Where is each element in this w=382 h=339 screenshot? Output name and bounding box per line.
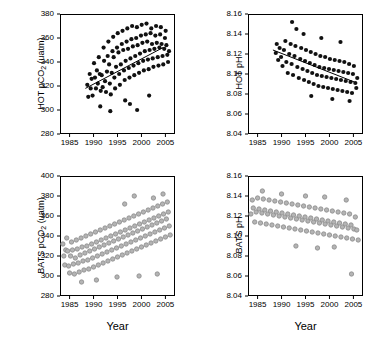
x-tick-label-bats-ph: 2005 (339, 300, 367, 309)
x-tick-label-hot-pco2: 2005 (151, 138, 179, 147)
y-tick-label-bats-pco2: 300 (18, 271, 54, 280)
y-tick-label-hot-ph: 8.14 (206, 29, 242, 38)
y-tick-label-hot-ph: 8.10 (206, 69, 242, 78)
chart-overlay (0, 0, 382, 339)
data-points-bats-ph (249, 189, 361, 276)
y-tick-label-hot-ph: 8.16 (206, 9, 242, 18)
y-tick-label-hot-pco2: 280 (18, 129, 54, 138)
y-tick-label-bats-pco2: 400 (18, 171, 54, 180)
y-tick-label-bats-ph: 8.10 (206, 231, 242, 240)
x-tick-label-bats-pco2: 2005 (151, 300, 179, 309)
y-tick-label-bats-pco2: 320 (18, 251, 54, 260)
y-tick-label-bats-ph: 8.14 (206, 191, 242, 200)
y-tick-label-hot-pco2: 300 (18, 105, 54, 114)
y-tick-label-hot-ph: 8.06 (206, 109, 242, 118)
x-tick-label-hot-ph: 2005 (339, 138, 367, 147)
data-points-hot-ph (273, 20, 359, 103)
data-points-hot-pco2 (85, 22, 171, 114)
y-tick-label-hot-pco2: 320 (18, 81, 54, 90)
y-tick-label-hot-ph: 8.04 (206, 129, 242, 138)
y-tick-label-bats-pco2: 360 (18, 211, 54, 220)
y-tick-label-bats-ph: 8.12 (206, 211, 242, 220)
y-tick-label-bats-ph: 8.04 (206, 291, 242, 300)
y-tick-label-bats-ph: 8.06 (206, 271, 242, 280)
y-tick-label-hot-pco2: 380 (18, 9, 54, 18)
data-points-bats-pco2 (61, 192, 173, 284)
y-tick-label-hot-pco2: 340 (18, 57, 54, 66)
y-tick-label-hot-pco2: 360 (18, 33, 54, 42)
y-tick-label-hot-ph: 8.12 (206, 49, 242, 58)
y-tick-label-bats-pco2: 280 (18, 291, 54, 300)
y-tick-label-bats-ph: 8.16 (206, 171, 242, 180)
y-tick-label-bats-ph: 8.08 (206, 251, 242, 260)
y-tick-label-hot-ph: 8.08 (206, 89, 242, 98)
y-tick-label-bats-pco2: 380 (18, 191, 54, 200)
y-tick-label-bats-pco2: 340 (18, 231, 54, 240)
figure-container: HOT pCO2 (uatm) HOT pH BATS pCO2 (uatm) … (0, 0, 382, 339)
